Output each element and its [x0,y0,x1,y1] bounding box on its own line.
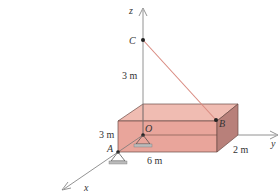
point-c-label: C [129,35,136,46]
y-axis-label: y [270,138,276,149]
point-o-label: O [145,123,152,134]
dim-box-length: 6 m [147,155,163,166]
x-axis-arrow-icon [62,182,71,190]
point-b-label: B [219,118,225,129]
statics-diagram: z C 3 m O B 3 m A 6 m 2 m y x [0,0,280,194]
box-front-face [118,121,217,152]
dim-box-depth: 2 m [233,144,249,155]
point-b [214,118,218,122]
point-a-label: A [106,143,114,154]
z-axis-label: z [128,5,133,16]
x-axis-label: x [83,182,89,193]
dim-box-height: 3 m [99,129,115,140]
dim-c-height: 3 m [122,70,138,81]
x-axis [64,135,143,189]
point-c [141,38,145,42]
